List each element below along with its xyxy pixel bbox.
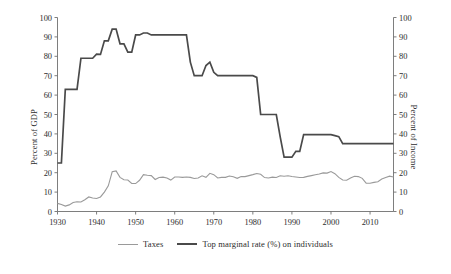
x-axis-tick-label: 1960 <box>166 218 183 227</box>
legend-item[interactable]: Taxes <box>118 239 163 249</box>
legend-swatch-icon <box>177 243 197 245</box>
y-axis-left: 0102030405060708090100 <box>39 14 57 217</box>
x-axis-tick-label: 1990 <box>284 218 301 227</box>
y-axis-right-tick-label: 0 <box>399 208 403 217</box>
y-axis-left-tick-label: 0 <box>48 208 52 217</box>
y-axis-right-tick-label: 20 <box>399 169 407 178</box>
x-axis: 193019401950196019701980199020002010 <box>49 212 393 227</box>
x-axis-tick-label: 1980 <box>244 218 261 227</box>
y-axis-left-tick-label: 70 <box>44 72 52 81</box>
chart-legend: TaxesTop marginal rate (%) on individual… <box>0 239 451 249</box>
y-axis-right-tick-label: 40 <box>399 130 407 139</box>
y-axis-left-tick-label: 90 <box>44 33 52 42</box>
y-axis-right-tick-label: 30 <box>399 149 407 158</box>
y-axis-right-tick-label: 60 <box>399 91 407 100</box>
y-axis-left-tick-label: 100 <box>39 14 52 23</box>
y-axis-right-tick-label: 70 <box>399 72 407 81</box>
y-axis-right: 0102030405060708090100 <box>394 14 412 217</box>
y-axis-right-tick-label: 80 <box>399 52 407 61</box>
y-axis-left-tick-label: 10 <box>44 188 52 197</box>
x-axis-tick-label: 1940 <box>88 218 105 227</box>
y-axis-left-tick-label: 30 <box>44 149 52 158</box>
x-axis-tick-label: 1970 <box>205 218 222 227</box>
y-axis-right-tick-label: 100 <box>399 14 412 23</box>
x-axis-tick-label: 2000 <box>323 218 340 227</box>
x-axis-tick-label: 2010 <box>362 218 379 227</box>
x-axis-tick-label: 1950 <box>127 218 144 227</box>
legend-swatch-icon <box>118 244 138 245</box>
series-lines <box>58 29 394 206</box>
y-axis-left-tick-label: 50 <box>44 111 52 120</box>
series-line <box>58 29 394 163</box>
series-line <box>58 171 394 206</box>
chart-figure: Percent of GDP Percent of Income 0102030… <box>0 0 451 274</box>
y-axis-right-tick-label: 10 <box>399 188 407 197</box>
line-chart-plot: 0102030405060708090100 01020304050607080… <box>0 0 451 274</box>
x-axis-tick-label: 1930 <box>49 218 66 227</box>
legend-label: Top marginal rate (%) on individuals <box>202 239 333 249</box>
y-axis-left-tick-label: 60 <box>44 91 52 100</box>
legend-item[interactable]: Top marginal rate (%) on individuals <box>177 239 333 249</box>
y-axis-left-tick-label: 20 <box>44 169 52 178</box>
y-axis-left-tick-label: 40 <box>44 130 52 139</box>
y-axis-right-tick-label: 50 <box>399 111 407 120</box>
y-axis-right-tick-label: 90 <box>399 33 407 42</box>
y-axis-left-tick-label: 80 <box>44 52 52 61</box>
legend-label: Taxes <box>143 239 163 249</box>
